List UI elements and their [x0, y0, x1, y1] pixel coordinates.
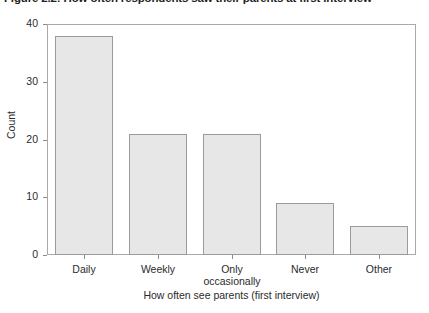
figure-title: Figure 2.2: How often respondents saw th…: [4, 0, 429, 4]
x-tick-mark: [232, 255, 233, 259]
x-tick-mark: [158, 255, 159, 259]
y-tick-label: 10: [8, 191, 38, 201]
x-category-label: Onlyoccasionally: [195, 264, 269, 287]
y-tick-mark: [43, 197, 47, 198]
y-tick-label: 40: [8, 18, 38, 28]
bar: [350, 226, 408, 255]
bar: [203, 134, 261, 255]
y-tick-mark: [43, 140, 47, 141]
x-category-label: Never: [268, 264, 342, 276]
x-tick-mark: [379, 255, 380, 259]
x-tick-mark: [305, 255, 306, 259]
bar-chart: Figure 2.2: How often respondents saw th…: [0, 0, 429, 313]
y-axis-title: Count: [5, 90, 17, 160]
x-tick-mark: [84, 255, 85, 259]
x-category-label: Weekly: [121, 264, 195, 276]
bar: [276, 203, 334, 255]
y-tick-label: 20: [8, 134, 38, 144]
x-axis-title: How often see parents (first interview): [47, 289, 416, 301]
x-category-label: Other: [342, 264, 416, 276]
y-tick-label: 30: [8, 76, 38, 86]
bar: [55, 36, 113, 255]
y-tick-label: 0: [8, 249, 38, 259]
bar: [129, 134, 187, 255]
y-tick-mark: [43, 82, 47, 83]
y-tick-mark: [43, 255, 47, 256]
x-category-label: Daily: [47, 264, 121, 276]
y-tick-mark: [43, 24, 47, 25]
